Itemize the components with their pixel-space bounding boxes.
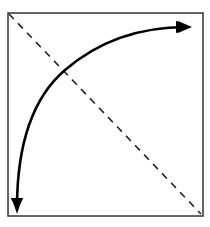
arrowhead-right-icon xyxy=(178,21,192,33)
diagram-canvas xyxy=(0,0,210,227)
double-headed-arc-arrow xyxy=(17,27,186,208)
arrowhead-down-icon xyxy=(12,199,22,214)
